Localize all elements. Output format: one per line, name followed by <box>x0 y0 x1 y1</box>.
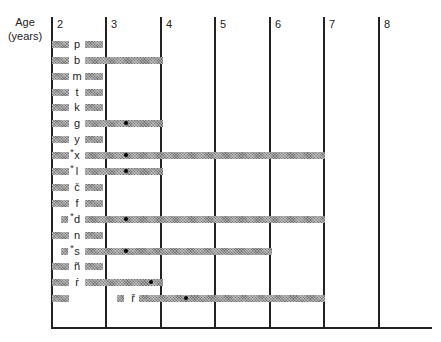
bar-right <box>139 295 325 302</box>
marker-dot <box>149 280 153 284</box>
tick-7: 7 <box>329 18 335 30</box>
marker-dot <box>124 153 128 157</box>
row-label: l <box>70 165 84 177</box>
bar-right <box>85 184 103 191</box>
row-label: č <box>70 181 84 193</box>
bar-left <box>52 136 69 143</box>
gridline-7 <box>323 17 325 328</box>
bar-left <box>52 104 69 111</box>
tick-3: 3 <box>111 18 117 30</box>
bar-right <box>85 104 103 111</box>
gridline-5 <box>214 17 216 328</box>
bar-right <box>85 200 103 207</box>
bar-left <box>52 41 69 48</box>
bar-right <box>85 248 272 255</box>
row-label: d <box>70 213 84 225</box>
tick-8: 8 <box>384 18 390 30</box>
row-label: y <box>70 133 84 145</box>
y-axis-label-line2: (years) <box>2 29 48 43</box>
tick-5: 5 <box>220 18 226 30</box>
marker-dot <box>124 217 128 221</box>
tick-4: 4 <box>166 18 172 30</box>
bar-right <box>85 73 103 80</box>
bar-left <box>52 73 69 80</box>
row-label: n <box>70 229 84 241</box>
gridline-6 <box>269 17 271 328</box>
bar-right <box>85 57 163 64</box>
row-label: m <box>70 70 84 82</box>
bar-left <box>52 57 69 64</box>
bar-right <box>85 216 325 223</box>
bar-right <box>85 152 325 159</box>
tick-2: 2 <box>57 18 63 30</box>
y-axis-label: Age (years) <box>2 15 48 43</box>
marker-dot <box>124 169 128 173</box>
row-label: g <box>70 117 84 129</box>
bar-left <box>52 184 69 191</box>
baseline <box>51 327 432 329</box>
row-label: b <box>70 54 84 66</box>
bar-left <box>52 200 69 207</box>
row-label: s <box>70 245 84 257</box>
bar-right <box>85 41 103 48</box>
marker-dot <box>184 296 188 300</box>
marker-dot <box>124 121 128 125</box>
bar-left <box>117 295 124 302</box>
gridline-8 <box>378 17 380 328</box>
bar-right <box>85 136 103 143</box>
row-label: p <box>70 38 84 50</box>
bar-left <box>52 232 69 239</box>
bar-left <box>52 295 69 302</box>
bar-left <box>52 279 69 286</box>
row-label: t <box>70 86 84 98</box>
row-label: ṙ <box>70 276 84 288</box>
bar-right <box>85 263 103 270</box>
bar-left <box>52 89 69 96</box>
row-label: x <box>70 149 84 161</box>
row-label: ñ <box>70 260 84 272</box>
marker-dot <box>124 249 128 253</box>
bar-right <box>85 232 103 239</box>
tick-6: 6 <box>275 18 281 30</box>
bar-left <box>52 263 69 270</box>
bar-left <box>52 120 69 127</box>
bar-right <box>85 89 103 96</box>
row-label: k <box>70 101 84 113</box>
row-label: f <box>70 197 84 209</box>
y-axis-label-line1: Age <box>2 15 48 29</box>
row-label: ř <box>126 292 140 304</box>
